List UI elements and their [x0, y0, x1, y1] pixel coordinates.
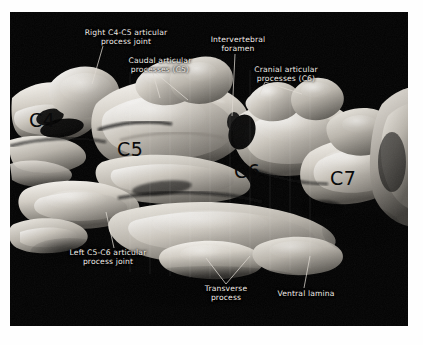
annotation-intervertebral-foramen: Intervertebral foramen — [196, 35, 280, 54]
vertebra-tag-c6: C6 — [234, 162, 260, 181]
annotation-transverse-process: Transverse process — [190, 284, 262, 303]
annotation-left-c5-c6-joint: Left C5-C6 articular process joint — [52, 248, 164, 267]
ct-image-panel: Right C4-C5 articular process joint Caud… — [10, 12, 408, 326]
vertebra-tag-c5: C5 — [117, 140, 143, 159]
annotation-ventral-lamina: Ventral lamina — [268, 289, 344, 298]
vertebra-tag-c7: C7 — [330, 169, 356, 188]
figure-page: Right C4-C5 articular process joint Caud… — [0, 0, 423, 345]
annotation-right-c4-c5-joint: Right C4-C5 articular process joint — [72, 28, 180, 47]
annotation-cranial-articular-processes-c6: Cranial articular processes (C6) — [238, 65, 334, 84]
vertebra-tag-c4: C4 — [29, 111, 55, 130]
annotation-caudal-articular-processes-c5: Caudal articular processes (C5) — [114, 56, 206, 75]
